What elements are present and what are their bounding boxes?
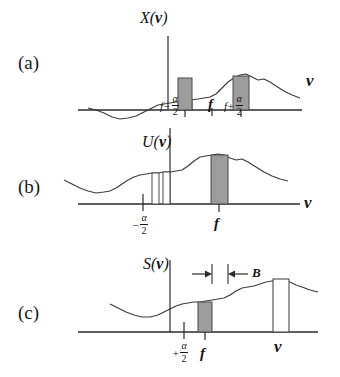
frac-alpha-2-b1: α2 [140, 213, 147, 236]
tick-c1-num: α [180, 341, 187, 351]
tick-c1-den: 2 [181, 354, 188, 364]
curve-u-nu [64, 154, 288, 193]
frac-alpha-2-a1: α2 [172, 94, 179, 117]
tick-a1-num: α [172, 94, 179, 104]
tick-label-f-center-a: f [208, 97, 213, 112]
function-label-s: S(ν) [143, 256, 169, 272]
panel-c-plot [0, 246, 340, 377]
axis-label-nu-c: ν [274, 338, 282, 355]
paren-close-a: ) [162, 9, 167, 26]
band-white-c [273, 279, 289, 332]
tick-label-plus-alpha-half: +α2 [172, 342, 189, 365]
bandwidth-arrow-right-head [228, 271, 235, 278]
axis-label-nu-b: ν [304, 194, 312, 211]
band-left-gray-a-body [178, 78, 192, 110]
function-name-s: S [143, 255, 151, 272]
function-label-x: X(ν) [140, 10, 168, 26]
band-gray-c [198, 302, 212, 332]
panel-b: (b) U(ν) ν −α2 [0, 128, 340, 246]
tick-label-f-center-c: f [200, 346, 205, 361]
function-label-u: U(ν) [142, 134, 171, 150]
band-narrow-white-2-b [163, 172, 170, 204]
tick-a1-den: 2 [172, 107, 179, 117]
panel-c: (c) S(ν) [0, 246, 340, 377]
tick-a3-operator: + [227, 100, 234, 112]
function-name-x: X [140, 9, 150, 26]
paren-close-b: ) [166, 133, 171, 150]
nu-symbol-b: ν [159, 133, 166, 150]
tick-a3-den: 2 [236, 107, 243, 117]
tick-label-f-minus-alpha-half: f−α2 [160, 95, 180, 118]
figure-root: (a) X(ν) ν f−α2 [0, 0, 340, 377]
tick-a1-operator: − [163, 100, 170, 112]
frac-alpha-2-a3: α2 [236, 94, 243, 117]
bandwidth-arrow-left-head [205, 271, 212, 278]
panel-a: (a) X(ν) ν f−α2 [0, 0, 340, 128]
tick-label-minus-alpha-half: −α2 [132, 214, 149, 237]
tick-a3-num: α [236, 94, 243, 104]
curve-x-nu [88, 74, 300, 119]
frac-alpha-2-c1: α2 [180, 341, 187, 364]
tick-label-f-center-b: f [214, 216, 219, 231]
tick-b1-num: α [140, 213, 147, 223]
band-narrow-white-1-b [152, 173, 159, 204]
function-name-u: U [142, 133, 154, 150]
bandwidth-label-b: B [252, 266, 261, 279]
band-gray-b [211, 155, 228, 204]
tick-c1-operator: + [172, 347, 179, 359]
tick-b1-den: 2 [141, 226, 148, 236]
tick-b1-operator: − [132, 219, 139, 231]
axis-label-nu-a: ν [306, 72, 314, 89]
tick-label-f-plus-alpha-half: f+α2 [224, 95, 244, 118]
paren-close-c: ) [163, 255, 168, 272]
